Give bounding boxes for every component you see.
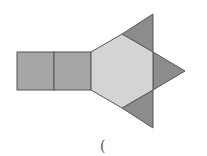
answer-parenthesis: ( xyxy=(100,138,105,154)
rectangle-face-left xyxy=(17,52,54,90)
rectangle-face-right xyxy=(54,52,91,90)
triangle-face-right xyxy=(153,52,185,90)
net-diagram xyxy=(0,0,207,156)
